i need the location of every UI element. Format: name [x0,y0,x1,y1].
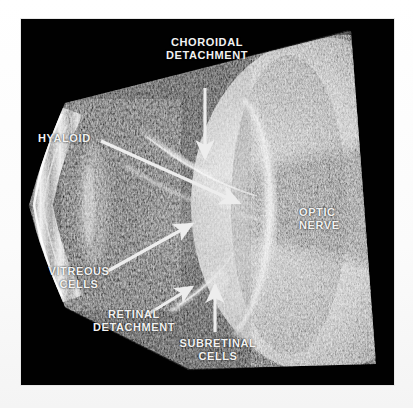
label-retinal-detachment: RETINAL DETACHMENT [78,308,190,334]
label-choroidal-detachment: CHOROIDAL DETACHMENT [148,36,266,62]
ultrasound-scan-plate: CHOROIDAL DETACHMENT HYALOID VITREOUS CE… [21,19,394,385]
label-subretinal-cells: SUBRETINAL CELLS [163,337,273,363]
figure-root: CHOROIDAL DETACHMENT HYALOID VITREOUS CE… [0,0,413,408]
label-optic-nerve: OPTIC NERVE [299,206,369,232]
label-vitreous-cells: VITREOUS CELLS [36,265,122,291]
label-hyaloid: HYALOID [38,132,108,145]
